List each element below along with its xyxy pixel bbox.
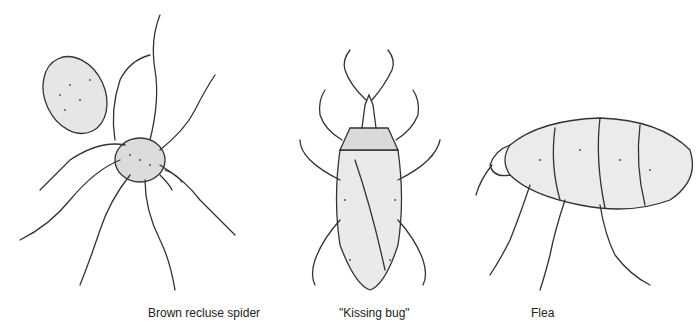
caption-kissing-bug: "Kissing bug" <box>339 306 410 320</box>
caption-brown-recluse-spider: Brown recluse spider <box>148 306 260 320</box>
flea-drawing <box>0 0 700 335</box>
caption-flea: Flea <box>531 306 554 320</box>
